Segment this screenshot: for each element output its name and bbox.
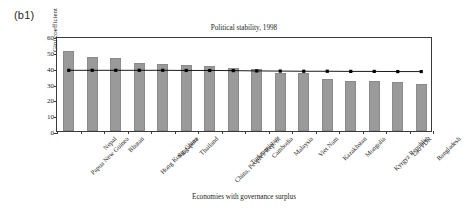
line-marker — [255, 69, 258, 72]
reference-line-series — [57, 38, 433, 133]
line-marker — [396, 70, 399, 73]
x-tick-label: Singapore — [176, 135, 200, 159]
panel-label: (b1) — [14, 9, 34, 21]
x-tick-mark — [410, 131, 411, 134]
x-tick-mark — [292, 131, 293, 134]
x-tick-label: Thailand — [198, 135, 220, 157]
line-marker — [67, 69, 70, 72]
line-marker — [326, 70, 329, 73]
y-tick-label: 20 — [47, 97, 54, 105]
x-tick-label: Bhutan — [126, 135, 144, 153]
x-axis-title: Economies with governance surplus — [56, 193, 432, 201]
y-tick-label: 50 — [47, 50, 54, 58]
x-tick-mark — [81, 131, 82, 134]
plot-area: Gini coefficient 0102030405060 Papua New… — [56, 37, 432, 132]
reference-line — [69, 70, 422, 71]
line-marker — [373, 70, 376, 73]
x-tick-mark — [269, 131, 270, 134]
x-tick-label: Malaysia — [292, 135, 314, 157]
line-marker — [349, 70, 352, 73]
x-tick-label: Kazakhstan — [341, 135, 368, 162]
line-series-layer — [57, 38, 431, 131]
line-marker — [279, 69, 282, 72]
line-marker — [208, 69, 211, 72]
x-tick-mark — [175, 131, 176, 134]
x-tick-mark — [57, 131, 58, 134]
line-marker — [161, 69, 164, 72]
line-marker — [91, 69, 94, 72]
y-tick-label: 40 — [47, 66, 54, 74]
chart-title: Political stability, 1998 — [56, 24, 432, 32]
line-marker — [114, 69, 117, 72]
x-tick-label: Bangladesh — [435, 135, 462, 162]
y-tick-label: 60 — [47, 34, 54, 42]
line-marker — [185, 69, 188, 72]
x-tick-mark — [128, 131, 129, 134]
x-tick-mark — [339, 131, 340, 134]
x-tick-mark — [151, 131, 152, 134]
x-tick-mark — [433, 131, 434, 134]
y-tick-label: 10 — [47, 113, 54, 121]
figure: (b1) Political stability, 1998 Gini coef… — [0, 0, 465, 210]
x-tick-mark — [222, 131, 223, 134]
x-tick-label: Viet Nam — [316, 135, 339, 158]
line-marker — [232, 69, 235, 72]
x-tick-mark — [245, 131, 246, 134]
line-marker — [420, 70, 423, 73]
x-tick-mark — [316, 131, 317, 134]
line-marker — [302, 70, 305, 73]
x-tick-mark — [386, 131, 387, 134]
line-marker — [138, 69, 141, 72]
y-tick-label: 30 — [47, 82, 54, 90]
x-tick-mark — [198, 131, 199, 134]
x-tick-mark — [104, 131, 105, 134]
